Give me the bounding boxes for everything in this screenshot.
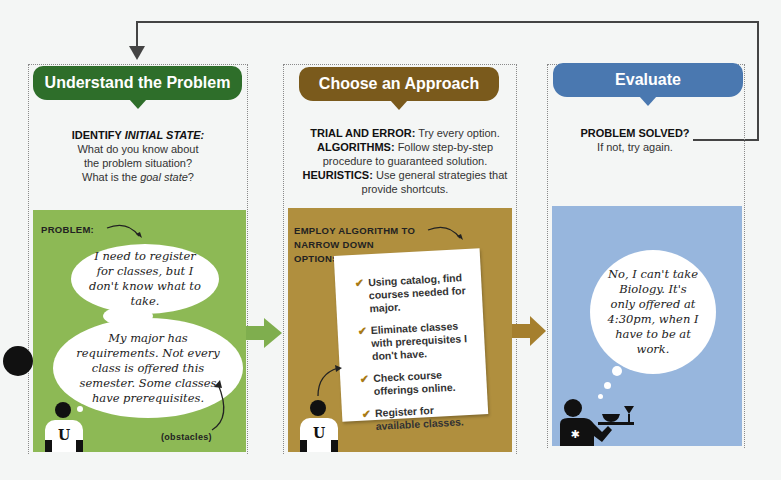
algorithms-term: ALGORITHMS: <box>317 141 395 153</box>
obstacles-annotation: (obstacles) <box>161 432 212 442</box>
heuristics-text: Use general strategies that provide shor… <box>362 169 508 195</box>
approach-title: Choose an Approach <box>319 75 479 92</box>
flow-arrow-2-to-3 <box>512 316 552 346</box>
checklist-item: ✔Register for available classes. <box>362 402 477 434</box>
problem-panel: PROBLEM: I need to register for classes,… <box>33 210 246 452</box>
flow-arrow-1-to-2 <box>246 318 286 348</box>
obstacles-arrow-icon <box>208 378 238 438</box>
thought-puff-small <box>604 382 611 389</box>
checklist-item: ✔Using catalog, find courses needed for … <box>355 271 471 316</box>
desc-line: What do you know about <box>30 142 246 156</box>
waiter-icon: ✱ <box>558 396 648 446</box>
student-head <box>310 400 326 416</box>
evaluate-description: PROBLEM SOLVED? If not, try again. <box>560 126 710 154</box>
understand-title: Understand the Problem <box>45 74 231 91</box>
checklist-item: ✔Check course offerings online. <box>360 367 475 399</box>
checklist-item: ✔Eliminate classes with prerequisites I … <box>357 319 473 364</box>
heuristics-term: HEURISTICS: <box>303 169 373 181</box>
thought-puff <box>612 366 622 376</box>
check-icon: ✔ <box>362 407 372 420</box>
check-icon: ✔ <box>355 276 365 289</box>
black-circle-marker <box>3 346 33 376</box>
student-head <box>55 402 71 418</box>
student-arm-left <box>45 440 52 452</box>
svg-text:✱: ✱ <box>570 428 579 441</box>
understand-description: IDENTIFY INITIAL STATE: What do you know… <box>30 128 246 184</box>
thought-puff-small <box>83 394 92 403</box>
trial-error-term: TRIAL AND ERROR: <box>310 127 415 139</box>
thought-puff-tiny <box>77 406 83 412</box>
try-again-text: If not, try again. <box>560 140 710 154</box>
trial-error-text: Try every option. <box>418 127 500 139</box>
curved-arrow-icon <box>426 224 466 244</box>
approach-banner: Choose an Approach <box>299 67 499 101</box>
identify-label: IDENTIFY <box>72 129 125 141</box>
evaluate-title: Evaluate <box>615 71 681 88</box>
understand-banner: Understand the Problem <box>33 66 242 100</box>
evaluate-panel: No, I can't take Biology. It's only offe… <box>552 206 742 446</box>
curved-arrow-icon <box>314 364 344 400</box>
checklist-note: ✔Using catalog, find courses needed for … <box>334 248 488 421</box>
evaluate-banner: Evaluate <box>553 63 743 97</box>
check-icon: ✔ <box>360 372 370 385</box>
student-arm-left <box>300 440 307 452</box>
goal-suffix: ? <box>188 171 194 183</box>
check-icon: ✔ <box>357 324 367 337</box>
problem-solved-label: PROBLEM SOLVED? <box>580 127 689 139</box>
problem-label: PROBLEM: <box>41 224 94 235</box>
initial-state-label: INITIAL STATE: <box>125 129 204 141</box>
desc-line: the problem situation? <box>30 156 246 170</box>
student-arm-right <box>331 440 338 452</box>
thought-cloud-biology: No, I can't take Biology. It's only offe… <box>590 250 716 374</box>
goal-state-term: goal state <box>140 171 188 183</box>
student-arm-right <box>76 440 83 452</box>
algorithm-panel: EMPLOY ALGORITHM TO NARROW DOWN OPTIONS:… <box>288 208 512 452</box>
goal-prefix: What is the <box>82 171 140 183</box>
curved-arrow-icon <box>105 222 145 242</box>
approach-strategies: TRIAL AND ERROR: Try every option. ALGOR… <box>300 126 510 196</box>
thought-cloud-need: I need to register for classes, but I do… <box>71 244 219 314</box>
